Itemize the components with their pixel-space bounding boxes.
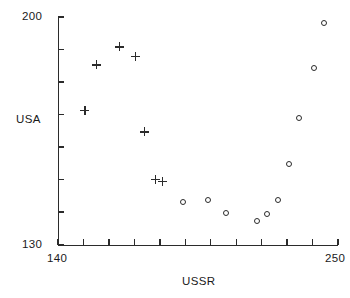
x-tick	[159, 239, 160, 245]
x-axis-min-label: 140	[47, 252, 67, 264]
data-point-circle	[264, 211, 270, 217]
data-point-plus	[131, 52, 140, 61]
y-tick	[58, 146, 64, 147]
data-point-plus	[80, 106, 89, 115]
y-tick	[58, 179, 64, 180]
data-point-plus	[140, 127, 149, 136]
data-point-plus	[115, 42, 124, 51]
y-tick	[58, 244, 64, 245]
data-point-circle	[254, 218, 260, 224]
data-point-circle	[205, 197, 211, 203]
data-point-plus	[158, 177, 167, 186]
data-point-circle	[286, 161, 292, 167]
y-axis-min-label: 130	[22, 238, 42, 250]
data-point-plus	[92, 60, 101, 69]
y-tick	[58, 211, 64, 212]
x-tick	[83, 239, 84, 245]
y-tick	[58, 49, 64, 50]
data-point-circle	[223, 210, 229, 216]
x-tick	[261, 239, 262, 245]
x-tick	[57, 239, 58, 245]
x-axis-title: USSR	[182, 275, 216, 287]
scatter-plot-figure: 200 130 140 250 USA USSR	[0, 0, 350, 298]
y-axis-max-label: 200	[22, 10, 42, 22]
x-tick	[312, 239, 313, 245]
y-tick	[58, 81, 64, 82]
data-point-circle	[321, 20, 327, 26]
y-axis-title: USA	[16, 113, 41, 125]
data-point-circle	[275, 197, 281, 203]
x-tick	[108, 239, 109, 245]
x-tick	[185, 239, 186, 245]
x-axis-line	[58, 245, 338, 246]
data-point-circle	[180, 199, 186, 205]
data-point-circle	[311, 65, 317, 71]
y-tick	[58, 16, 64, 17]
x-axis-max-label: 250	[325, 252, 345, 264]
x-tick	[210, 239, 211, 245]
x-tick	[134, 239, 135, 245]
x-tick	[236, 239, 237, 245]
y-tick	[58, 114, 64, 115]
data-point-circle	[296, 115, 302, 121]
x-tick	[337, 239, 338, 245]
x-tick	[286, 239, 287, 245]
